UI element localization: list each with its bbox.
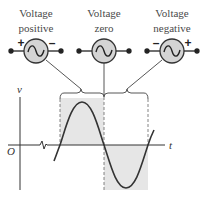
plus-sign: + [184,36,191,50]
plus-sign: + [17,36,24,50]
minus-sign: – [49,36,56,50]
svg-text:zero: zero [95,22,114,34]
shaded-positive-region [60,98,104,145]
svg-text:Voltage: Voltage [155,7,189,19]
svg-text:Voltage: Voltage [19,7,53,19]
connector-lines [46,60,162,95]
origin-label: O [7,145,15,157]
source-negative-label: Voltage negative [153,7,190,34]
y-axis-label: v [17,83,22,95]
svg-text:positive: positive [19,22,54,34]
svg-text:Voltage: Voltage [87,7,121,19]
ac-source-zero [77,39,131,63]
brace-positive [60,89,104,99]
source-zero-label: Voltage zero [87,7,121,34]
brace-negative [104,89,148,99]
source-positive-label: Voltage positive [19,7,54,34]
ac-voltage-polarity-diagram: Voltage positive Voltage zero Voltage ne… [0,0,208,205]
x-axis-label: t [169,139,173,151]
minus-sign: – [153,36,160,50]
svg-text:negative: negative [153,22,190,34]
axis-break-icon [35,141,47,149]
